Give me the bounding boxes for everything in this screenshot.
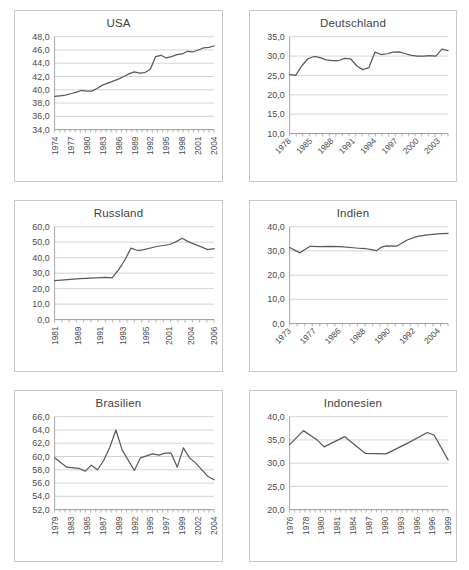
x-axis-tick-label: 2000 [401, 136, 421, 156]
x-axis-tick-label: 1992 [397, 326, 417, 346]
chart-cell-russland: Russland0,010,020,030,040,050,060,019811… [0, 190, 235, 380]
x-axis-tick-label: 1986 [114, 136, 124, 155]
x-axis-tick-label: 1989 [114, 516, 124, 535]
y-axis-tick-label: 30,0 [267, 458, 284, 468]
x-axis-tick-label: 1981 [332, 516, 342, 535]
y-axis-tick-label: 40,0 [267, 222, 284, 232]
x-axis-tick-label: 1980 [316, 516, 326, 535]
y-axis-tick-label: 25,0 [267, 482, 284, 492]
x-axis-tick-label: 1992 [145, 136, 155, 155]
y-axis-tick-label: 46,0 [32, 45, 49, 55]
y-axis-tick-label: 36,0 [32, 112, 49, 122]
x-axis-tick-label: 1993 [396, 516, 406, 535]
y-axis-tick-label: 10,0 [267, 295, 284, 305]
x-axis-tick-label: 1999 [443, 516, 453, 535]
chart-cell-indien: Indien0,010,020,030,040,0197319771986198… [235, 190, 469, 380]
y-axis-tick-label: 40,0 [32, 253, 49, 263]
x-axis-tick-label: 1988 [315, 136, 335, 156]
x-axis-tick-label: 1980 [82, 136, 92, 155]
x-axis-tick-label: 1979 [50, 516, 60, 535]
y-axis-tick-label: 10,0 [32, 299, 49, 309]
y-axis-tick-label: 30,0 [32, 268, 49, 278]
x-axis-tick-label: 1983 [66, 516, 76, 535]
x-axis-tick-label: 1986 [323, 326, 343, 346]
x-axis-tick-label: 1993 [118, 326, 128, 345]
x-axis-tick-label: 1976 [285, 516, 295, 535]
plot-area: 20,025,030,035,040,019761978198019811984… [250, 391, 456, 561]
y-axis-tick-label: 40,0 [32, 85, 49, 95]
y-axis-tick-label: 30,0 [267, 246, 284, 256]
chart-grid: USA34,036,038,040,042,044,046,048,019741… [0, 0, 469, 570]
y-axis-tick-label: 20,0 [267, 90, 284, 100]
x-axis-tick-label: 1983 [98, 136, 108, 155]
y-axis-tick-label: 38,0 [32, 98, 49, 108]
x-axis-tick-label: 1995 [141, 326, 151, 345]
series-line [55, 430, 214, 480]
y-axis-tick-label: 0,0 [37, 315, 49, 325]
chart-panel-indien: Indien0,010,020,030,040,0197319771986198… [249, 200, 457, 372]
y-axis-tick-label: 20,0 [267, 505, 284, 515]
y-axis-tick-label: 15,0 [267, 109, 284, 119]
x-axis-tick-label: 1985 [82, 516, 92, 535]
plot-area: 0,010,020,030,040,0197319771986198819901… [250, 201, 456, 371]
x-axis-tick-label: 1996 [427, 516, 437, 535]
y-axis-tick-label: 64,0 [32, 425, 49, 435]
chart-panel-usa: USA34,036,038,040,042,044,046,048,019741… [14, 10, 223, 182]
x-axis-tick-label: 1992 [130, 516, 140, 535]
chart-cell-deutschland: Deutschland10,015,020,025,030,035,019781… [235, 0, 469, 190]
y-axis-tick-label: 0,0 [272, 319, 284, 329]
x-axis-tick-label: 2006 [209, 326, 219, 345]
y-axis-tick-label: 10,0 [267, 129, 284, 139]
y-axis-tick-label: 34,0 [32, 125, 49, 135]
x-axis-tick-label: 1991 [337, 136, 357, 156]
x-axis-tick-label: 2004 [209, 136, 219, 155]
x-axis-tick-label: 1987 [98, 516, 108, 535]
chart-cell-usa: USA34,036,038,040,042,044,046,048,019741… [0, 0, 235, 190]
x-axis-tick-label: 1984 [348, 516, 358, 535]
y-axis-tick-label: 20,0 [32, 284, 49, 294]
x-axis-tick-label: 1997 [161, 516, 171, 535]
x-axis-tick-label: 1985 [294, 136, 314, 156]
x-axis-tick-label: 2004 [422, 326, 442, 346]
y-axis-tick-label: 66,0 [32, 412, 49, 422]
series-line [290, 49, 448, 75]
series-line [290, 233, 448, 252]
plot-area: 52,054,056,058,060,062,064,066,019791983… [15, 391, 222, 561]
y-axis-tick-label: 20,0 [267, 270, 284, 280]
y-axis-tick-label: 54,0 [32, 492, 49, 502]
x-axis-tick-label: 1988 [347, 326, 367, 346]
y-axis-tick-label: 30,0 [267, 51, 284, 61]
x-axis-tick-label: 1978 [301, 516, 311, 535]
x-axis-tick-label: 2001 [164, 326, 174, 345]
y-axis-tick-label: 40,0 [267, 412, 284, 422]
x-axis-tick-label: 1998 [177, 136, 187, 155]
x-axis-tick-label: 1974 [50, 136, 60, 155]
x-axis-tick-label: 1996 [412, 516, 422, 535]
chart-cell-brasilien: Brasilien52,054,056,058,060,062,064,066,… [0, 380, 235, 570]
x-axis-tick-label: 1990 [380, 516, 390, 535]
x-axis-tick-label: 1989 [73, 326, 83, 345]
chart-panel-brasilien: Brasilien52,054,056,058,060,062,064,066,… [14, 390, 223, 562]
y-axis-tick-label: 44,0 [32, 58, 49, 68]
y-axis-tick-label: 58,0 [32, 465, 49, 475]
y-axis-tick-label: 25,0 [267, 71, 284, 81]
chart-panel-russland: Russland0,010,020,030,040,050,060,019811… [14, 200, 223, 372]
x-axis-tick-label: 2001 [193, 136, 203, 155]
plot-area: 34,036,038,040,042,044,046,048,019741977… [15, 11, 222, 181]
y-axis-tick-label: 56,0 [32, 478, 49, 488]
x-axis-tick-label: 1994 [358, 136, 378, 156]
x-axis-tick-label: 1977 [66, 136, 76, 155]
y-axis-tick-label: 50,0 [32, 237, 49, 247]
series-line [290, 431, 448, 460]
x-axis-tick-label: 2003 [422, 136, 442, 156]
y-axis-tick-label: 60,0 [32, 222, 49, 232]
y-axis-tick-label: 62,0 [32, 438, 49, 448]
x-axis-tick-label: 1981 [50, 326, 60, 345]
x-axis-tick-label: 1991 [95, 326, 105, 345]
plot-area: 10,015,020,025,030,035,01978198519881991… [250, 11, 456, 181]
series-line [55, 238, 214, 280]
y-axis-tick-label: 42,0 [32, 72, 49, 82]
x-axis-tick-label: 1989 [130, 136, 140, 155]
chart-panel-deutschland: Deutschland10,015,020,025,030,035,019781… [249, 10, 457, 182]
chart-panel-indonesien: Indonesien20,025,030,035,040,01976197819… [249, 390, 457, 562]
